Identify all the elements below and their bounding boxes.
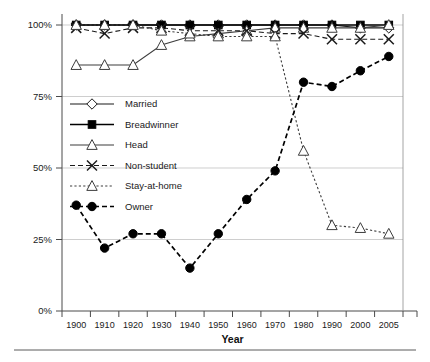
- xtick-label-2005: 2005: [379, 320, 399, 330]
- legend-item-breadwinner[interactable]: Breadwinner: [70, 119, 178, 130]
- legend-label: Head: [125, 139, 148, 150]
- legend-label: Married: [125, 98, 157, 109]
- datapoint-2005: [385, 52, 393, 60]
- series-line: [76, 25, 389, 234]
- datapoint-2005: [384, 228, 394, 238]
- xtick-label-1910: 1910: [95, 320, 115, 330]
- line-chart: 0%25%50%75%100%1900191019201930194019501…: [0, 0, 430, 362]
- datapoint-1980: [298, 145, 308, 155]
- ytick-label-50: 50%: [33, 162, 53, 173]
- datapoint-1990: [327, 34, 337, 44]
- datapoint-2005: [384, 34, 394, 44]
- series-head: [71, 20, 394, 70]
- datapoint-1940: [186, 264, 194, 272]
- ytick-label-75: 75%: [33, 91, 53, 102]
- legend-label: Breadwinner: [125, 119, 178, 130]
- xtick-label-1930: 1930: [151, 320, 171, 330]
- xtick-label-1950: 1950: [208, 320, 228, 330]
- datapoint-2000: [356, 67, 364, 75]
- datapoint-1990: [327, 220, 337, 230]
- legend-marker: [88, 202, 96, 210]
- datapoint-1970: [271, 167, 279, 175]
- datapoint-2000: [355, 223, 365, 233]
- xtick-label-1900: 1900: [66, 320, 86, 330]
- xtick-label-1970: 1970: [265, 320, 285, 330]
- legend-label: Stay-at-home: [125, 180, 182, 191]
- chart-legend: MarriedBreadwinnerHeadNon-studentStay-at…: [70, 98, 182, 212]
- series-line: [76, 28, 389, 39]
- xtick-label-1980: 1980: [294, 320, 314, 330]
- legend-marker: [88, 121, 96, 129]
- legend-item-married[interactable]: Married: [70, 98, 157, 109]
- legend-marker: [87, 99, 97, 109]
- xtick-label-1960: 1960: [237, 320, 257, 330]
- datapoint-1980: [299, 78, 307, 86]
- ytick-label-100: 100%: [28, 19, 53, 30]
- xtick-label-2000: 2000: [350, 320, 370, 330]
- datapoint-1960: [243, 195, 251, 203]
- ytick-label-25: 25%: [33, 234, 53, 245]
- xtick-label-1940: 1940: [180, 320, 200, 330]
- datapoint-1920: [129, 230, 137, 238]
- series-stay-at-home: [71, 20, 394, 239]
- datapoint-1990: [328, 82, 336, 90]
- xtick-label-1920: 1920: [123, 320, 143, 330]
- datapoint-1910: [100, 244, 108, 252]
- datapoint-1950: [214, 230, 222, 238]
- x-axis-group: 1900191019201930194019501960197019801990…: [62, 311, 399, 330]
- series-line: [76, 25, 389, 65]
- legend-item-owner[interactable]: Owner: [70, 201, 153, 212]
- legend-item-stay-at-home[interactable]: Stay-at-home: [70, 180, 182, 191]
- datapoint-1900: [72, 201, 80, 209]
- datapoint-1930: [156, 40, 166, 50]
- legend-label: Owner: [125, 201, 153, 212]
- series-line: [76, 56, 389, 268]
- chart-figure: 0%25%50%75%100%1900191019201930194019501…: [0, 0, 430, 362]
- legend-label: Non-student: [125, 160, 177, 171]
- x-axis-title: Year: [221, 333, 243, 345]
- legend-item-head[interactable]: Head: [70, 139, 148, 150]
- datapoint-1930: [157, 230, 165, 238]
- legend-item-non-student[interactable]: Non-student: [70, 160, 177, 171]
- series-group: [71, 20, 394, 273]
- ytick-label-0: 0%: [38, 305, 52, 316]
- xtick-label-1990: 1990: [322, 320, 342, 330]
- grid-group: 0%25%50%75%100%: [28, 19, 403, 316]
